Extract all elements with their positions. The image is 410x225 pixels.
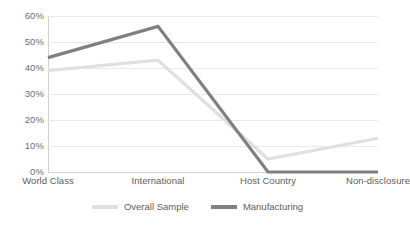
legend-swatch-manufacturing — [211, 205, 237, 209]
chart-legend: Overall SampleManufacturing — [0, 199, 395, 215]
series-line-overall-sample — [48, 60, 378, 159]
y-tick-label: 40% — [2, 63, 44, 73]
y-tick-label: 60% — [2, 11, 44, 21]
y-tick-label: 20% — [2, 115, 44, 125]
legend-entry-manufacturing[interactable]: Manufacturing — [211, 202, 303, 212]
y-tick-label: 10% — [2, 141, 44, 151]
legend-entry-overall-sample[interactable]: Overall Sample — [92, 202, 189, 212]
y-tick-label: 50% — [2, 37, 44, 47]
series-lines — [48, 16, 378, 172]
y-tick-label: 30% — [2, 89, 44, 99]
x-tick-label-non-disclosure: Non-disclosure — [346, 176, 410, 186]
legend-swatch-overall-sample — [92, 205, 118, 209]
x-tick-label-host-country: Host Country — [240, 176, 296, 186]
legend-label-overall-sample: Overall Sample — [124, 202, 189, 212]
x-axis-tick-labels: World ClassInternationalHost CountryNon-… — [48, 176, 378, 192]
legend-label-manufacturing: Manufacturing — [243, 202, 303, 212]
x-tick-label-international: International — [132, 176, 185, 186]
x-tick-label-world-class: World Class — [22, 176, 74, 186]
plot-area — [48, 16, 378, 172]
series-line-manufacturing — [48, 26, 378, 172]
y-axis-tick-labels: 0%10%20%30%40%50%60% — [0, 16, 44, 172]
